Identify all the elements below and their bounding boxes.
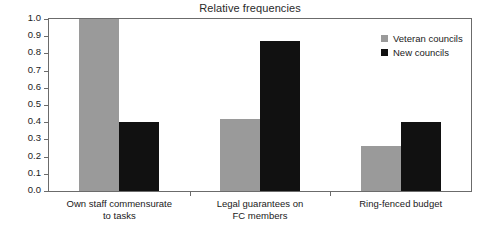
- y-axis-tick-label: 1.0: [28, 12, 41, 23]
- chart-title: Relative frequencies: [0, 2, 500, 14]
- bar-group: [220, 19, 300, 191]
- bar: [401, 122, 441, 191]
- y-axis-tick-label: 0.6: [28, 81, 41, 92]
- legend-item-new-councils: New councils: [381, 46, 473, 59]
- y-axis-tick-label: 0.0: [28, 184, 41, 195]
- x-axis-category-label-line2: to tasks: [49, 210, 190, 222]
- bar: [260, 41, 300, 191]
- y-axis-tick-label: 0.3: [28, 132, 41, 143]
- bar: [220, 119, 260, 191]
- x-axis-category-label-line1: Legal guarantees on: [217, 198, 304, 209]
- legend-label-veteran: Veteran councils: [393, 33, 463, 44]
- x-axis-ticks: [49, 192, 471, 197]
- y-axis: 1.00.90.80.70.60.50.40.30.20.10.0: [0, 18, 48, 192]
- x-axis-category-label: Own staff commensurateto tasks: [49, 198, 190, 222]
- y-axis-tick-label: 0.1: [28, 167, 41, 178]
- y-axis-tick-label: 0.4: [28, 115, 41, 126]
- y-axis-tick-label: 0.8: [28, 46, 41, 57]
- bar-chart: Relative frequencies 1.00.90.80.70.60.50…: [0, 0, 500, 241]
- legend-item-veteran-councils: Veteran councils: [381, 32, 473, 45]
- legend-swatch-icon-new: [381, 49, 388, 56]
- y-axis-tick-label: 0.5: [28, 98, 41, 109]
- chart-legend: Veteran councils New councils: [381, 32, 473, 60]
- x-axis-category-label: Ring-fenced budget: [330, 198, 471, 210]
- legend-label-new: New councils: [393, 47, 449, 58]
- x-axis-category-label: Legal guarantees onFC members: [190, 198, 331, 222]
- bar: [119, 122, 159, 191]
- x-axis-category-label-line1: Ring-fenced budget: [359, 198, 442, 209]
- bar: [79, 19, 119, 191]
- y-axis-tick-label: 0.9: [28, 29, 41, 40]
- bar-group: [79, 19, 159, 191]
- x-axis-category-label-line1: Own staff commensurate: [67, 198, 172, 209]
- x-axis-category-label-line2: FC members: [190, 210, 331, 222]
- y-axis-tick-label: 0.7: [28, 64, 41, 75]
- y-axis-tick-label: 0.2: [28, 150, 41, 161]
- bar: [361, 146, 401, 191]
- x-axis-tick-mark: [190, 192, 191, 196]
- x-axis-labels: Own staff commensurateto tasksLegal guar…: [49, 198, 471, 240]
- legend-swatch-icon-veteran: [381, 35, 388, 42]
- x-axis-tick-mark: [330, 192, 331, 196]
